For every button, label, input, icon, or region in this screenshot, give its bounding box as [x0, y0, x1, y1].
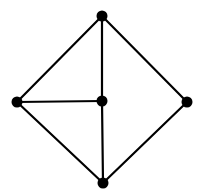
node-top [97, 11, 108, 22]
node-right [182, 97, 193, 108]
edge-left-bottom [17, 102, 103, 183]
graph-diagram [0, 0, 203, 194]
edge-center-bottom [102, 101, 103, 183]
edge-top-right [102, 16, 187, 102]
node-bottom [98, 178, 109, 189]
node-left [12, 97, 23, 108]
node-center [97, 96, 108, 107]
edge-right-bottom [103, 102, 187, 183]
edge-left-center [17, 101, 102, 102]
edge-top-left [17, 16, 102, 102]
